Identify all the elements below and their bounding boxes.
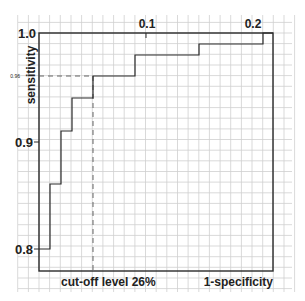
cutoff-label: cut-off level 26%	[61, 275, 156, 289]
x-tick-label-0.1: 0.1	[139, 17, 156, 31]
x-axis-label: 1-specificity	[204, 275, 274, 289]
x-tick-label-0.2: 0.2	[245, 17, 262, 31]
y-tick-label-0.96: 0.96	[10, 73, 20, 79]
y-axis-label: sensitivity	[24, 45, 38, 104]
y-tick-label-1.0: 1.0	[18, 26, 36, 41]
y-tick-label-0.8: 0.8	[15, 242, 33, 257]
grid-lines	[18, 15, 295, 292]
roc-chart: 1.0 0.9 0.8 0.96 0.1 0.2 sensitivity cut…	[0, 0, 305, 301]
y-tick-label-0.9: 0.9	[15, 135, 33, 150]
